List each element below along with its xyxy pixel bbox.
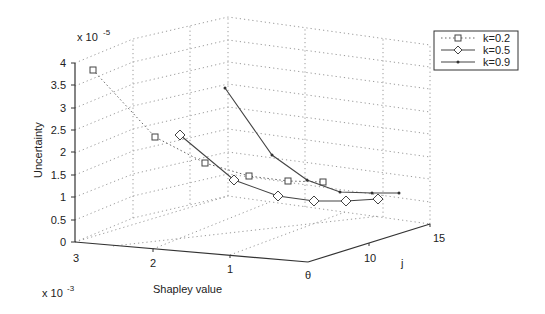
dot-marker-icon: [457, 61, 460, 64]
axes: [71, 63, 430, 262]
grid: [75, 17, 430, 255]
square-marker-icon: [285, 178, 291, 184]
svg-text:k=0.9: k=0.9: [483, 56, 510, 68]
svg-text:-3: -3: [67, 284, 75, 293]
diamond-marker-icon: [273, 191, 283, 201]
z-exponent: x 10 -5: [77, 28, 111, 43]
svg-text:0.5: 0.5: [51, 214, 66, 226]
svg-text:1.5: 1.5: [51, 169, 66, 181]
y-tick-labels: 10 15: [364, 232, 445, 264]
square-marker-icon: [152, 134, 158, 140]
z-tick-labels: 4 3.5 3 2.5 2 1.5 1 0.5 0: [51, 57, 66, 248]
svg-text:k=0.2: k=0.2: [483, 32, 510, 44]
svg-text:10: 10: [364, 252, 376, 264]
svg-text:θ: θ: [305, 269, 311, 281]
square-marker-icon: [320, 179, 326, 185]
series-k02: [90, 67, 326, 185]
svg-text:2.5: 2.5: [51, 124, 66, 136]
x-tick-labels: 3 2 1 θ: [73, 252, 311, 281]
svg-text:2: 2: [60, 146, 66, 158]
square-marker-icon: [246, 173, 252, 179]
svg-text:x 10: x 10: [42, 287, 63, 299]
series-k05: [175, 130, 383, 206]
z-axis-label: Uncertainty: [32, 122, 44, 178]
square-marker-icon: [202, 160, 208, 166]
svg-text:4: 4: [60, 57, 66, 69]
diamond-marker-icon: [341, 196, 351, 206]
square-marker-icon: [90, 67, 96, 73]
y-axis-label: j: [400, 257, 403, 269]
svg-text:15: 15: [433, 232, 445, 244]
svg-text:x 10: x 10: [77, 31, 98, 43]
chart-3d: 4 3.5 3 2.5 2 1.5 1 0.5 0 x 10 -5 Uncert…: [0, 0, 545, 314]
square-marker-icon: [455, 35, 461, 41]
svg-text:3.5: 3.5: [51, 79, 66, 91]
svg-text:1: 1: [227, 263, 233, 275]
x-axis: [75, 242, 308, 262]
svg-text:1: 1: [60, 191, 66, 203]
svg-text:3: 3: [73, 252, 79, 264]
diamond-marker-icon: [309, 196, 319, 206]
svg-text:k=0.5: k=0.5: [483, 44, 510, 56]
svg-text:2: 2: [150, 257, 156, 269]
legend: k=0.2 k=0.5 k=0.9: [434, 31, 518, 70]
svg-text:0: 0: [60, 236, 66, 248]
svg-text:3: 3: [60, 102, 66, 114]
svg-text:-5: -5: [103, 28, 111, 37]
x-axis-label: Shapley value: [153, 283, 222, 295]
x-exponent: x 10 -3: [42, 284, 75, 299]
